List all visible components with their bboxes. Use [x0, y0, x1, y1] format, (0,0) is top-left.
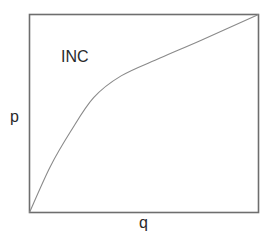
- inc-curve: [30, 15, 259, 213]
- curve-label: INC: [61, 49, 89, 65]
- x-axis-label: q: [139, 215, 148, 231]
- y-axis-label: p: [10, 109, 19, 125]
- chart-canvas: [0, 0, 271, 247]
- plot-frame: [30, 15, 259, 213]
